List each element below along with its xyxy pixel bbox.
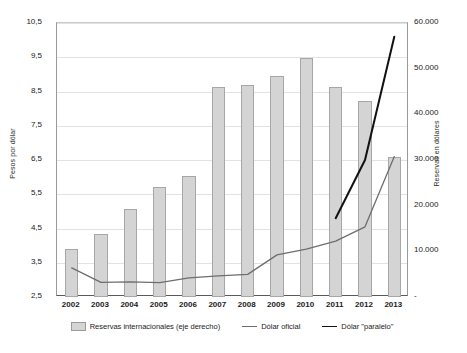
legend-swatch-bar <box>71 322 86 331</box>
legend-swatch-line <box>242 326 257 327</box>
y-axis-right-tick-label: 10.000 <box>414 245 458 254</box>
legend-label: Dólar oficial <box>261 322 300 331</box>
y-axis-right-tick-label: 40.000 <box>414 108 458 117</box>
y-axis-right-tick-label: 20.000 <box>414 200 458 209</box>
x-axis-tick-label: 2013 <box>375 300 411 309</box>
legend-item[interactable]: Dólar oficial <box>242 322 300 331</box>
legend-label: Dólar "paralelo" <box>341 322 393 331</box>
legend-label: Reservas internacionales (eje derecho) <box>90 322 221 331</box>
legend-item[interactable]: Reservas internacionales (eje derecho) <box>71 322 221 331</box>
y-axis-right-tick-label: - <box>414 291 458 300</box>
y-axis-right-tick-label: 50.000 <box>414 63 458 72</box>
y-axis-left-tick-label: 4,5 <box>8 223 42 232</box>
y-axis-left-tick-label: 5,5 <box>8 188 42 197</box>
y-axis-left-tick-label: 2,5 <box>8 291 42 300</box>
line-paralelo <box>336 37 395 219</box>
y-axis-left-tick-label: 8,5 <box>8 86 42 95</box>
y-axis-left-tick-label: 10,5 <box>8 17 42 26</box>
line-series-group <box>57 23 409 297</box>
chart-canvas: Pesos por dólar Reservas en dólares 2,53… <box>0 0 467 353</box>
legend-swatch-line-dark <box>322 326 337 327</box>
y-axis-left-tick-label: 6,5 <box>8 154 42 163</box>
y-axis-right-tick-label: 60.000 <box>414 17 458 26</box>
y-axis-left-tick-label: 7,5 <box>8 120 42 129</box>
line-oficial <box>72 157 395 283</box>
y-axis-left-tick-label: 9,5 <box>8 51 42 60</box>
y-axis-left-tick-label: 3,5 <box>8 257 42 266</box>
legend-item[interactable]: Dólar "paralelo" <box>322 322 393 331</box>
chart-legend: Reservas internacionales (eje derecho)Dó… <box>56 322 408 331</box>
plot-area <box>56 22 408 296</box>
y-axis-right-tick-label: 30.000 <box>414 154 458 163</box>
